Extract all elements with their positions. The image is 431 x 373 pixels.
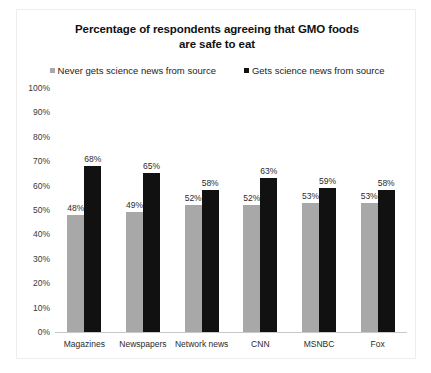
chart-title-line-2: are safe to eat [37,37,397,52]
bar[interactable] [260,178,277,332]
bar-wrapper: 68% [84,88,101,332]
bar-value-label: 65% [143,161,160,171]
bar-value-label: 59% [319,176,336,186]
bar[interactable] [302,203,319,332]
bar-value-label: 58% [202,178,219,188]
bar-group: 53%58%Fox [348,88,407,332]
chart-title-line-1: Percentage of respondents agreeing that … [37,22,397,37]
y-axis-tick-label: 50% [33,205,50,215]
bar-wrapper: 63% [260,88,277,332]
x-axis-category-label: MSNBC [304,339,335,349]
legend-item-gets-science-news[interactable]: Gets science news from source [244,65,385,76]
y-axis-tick-label: 90% [33,107,50,117]
x-axis-category-label: CNN [251,339,269,349]
y-axis-tick-label: 70% [33,156,50,166]
x-axis-category-label: Newspapers [119,339,166,349]
bar[interactable] [84,166,101,332]
y-axis-tick-label: 100% [28,83,50,93]
bar-value-label: 48% [67,203,84,213]
bar-group: 49%65%Newspapers [114,88,173,332]
bar-value-label: 52% [185,193,202,203]
bar-value-label: 63% [260,166,277,176]
legend-swatch-grey-icon [50,68,55,73]
bar-wrapper: 58% [378,88,395,332]
bar[interactable] [126,212,143,332]
chart-container: Percentage of respondents agreeing that … [16,9,416,359]
bar-group: 52%58%Network news [172,88,231,332]
bar-wrapper: 48% [67,88,84,332]
y-axis-tick-label: 30% [33,254,50,264]
bar-value-label: 58% [378,178,395,188]
bar-wrapper: 52% [185,88,202,332]
y-axis-tick-label: 40% [33,229,50,239]
bar[interactable] [243,205,260,332]
chart-title: Percentage of respondents agreeing that … [37,22,397,52]
y-axis-tick-label: 0% [38,327,50,337]
legend-label-gets-science-news: Gets science news from source [252,65,385,76]
bar-wrapper: 53% [361,88,378,332]
bar-wrapper: 65% [143,88,160,332]
bar-group: 53%59%MSNBC [290,88,349,332]
legend-swatch-black-icon [244,68,249,73]
bar-value-label: 49% [126,200,143,210]
bar[interactable] [143,173,160,332]
bar[interactable] [185,205,202,332]
y-axis-tick-label: 10% [33,303,50,313]
legend-label-never-gets-science-news: Never gets science news from source [58,65,216,76]
bar[interactable] [378,190,395,332]
bar[interactable] [319,188,336,332]
bar-wrapper: 52% [243,88,260,332]
bar-value-label: 68% [84,154,101,164]
y-axis-tick-label: 80% [33,132,50,142]
bar-value-label: 53% [361,191,378,201]
bar-value-label: 53% [302,191,319,201]
plot-area: 100%90%80%70%60%50%40%30%20%10%0%48%68%M… [55,88,407,332]
y-axis-tick-label: 60% [33,181,50,191]
bar-group: 48%68%Magazines [55,88,114,332]
y-axis-tick-label: 20% [33,278,50,288]
x-axis-category-label: Fox [371,339,385,349]
x-axis-category-label: Magazines [64,339,105,349]
bar[interactable] [202,190,219,332]
bar-wrapper: 53% [302,88,319,332]
bar-wrapper: 49% [126,88,143,332]
legend-item-never-gets-science-news[interactable]: Never gets science news from source [50,65,216,76]
chart-legend: Never gets science news from source Gets… [17,65,417,76]
bar[interactable] [67,215,84,332]
bar-wrapper: 59% [319,88,336,332]
bar-wrapper: 58% [202,88,219,332]
bar-value-label: 52% [243,193,260,203]
bar[interactable] [361,203,378,332]
x-axis-category-label: Network news [175,339,228,349]
x-axis-line [55,332,407,333]
bar-group: 52%63%CNN [231,88,290,332]
